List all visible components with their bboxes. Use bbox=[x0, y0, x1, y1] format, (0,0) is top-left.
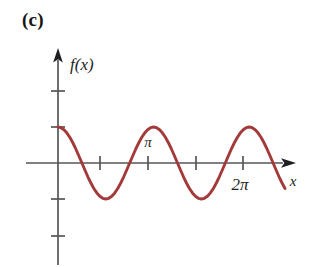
y-axis-label: f(x) bbox=[70, 55, 94, 74]
x-axis-label: x bbox=[289, 173, 297, 189]
x-axis-arrow-icon bbox=[281, 158, 296, 168]
x-tick-label-pi: π bbox=[144, 134, 152, 150]
x-tick-label-two-pi: 2π bbox=[231, 175, 249, 194]
figure-panel: (c) f(x) x π 2π bbox=[0, 0, 318, 267]
plot-area: f(x) x π 2π bbox=[0, 0, 318, 267]
